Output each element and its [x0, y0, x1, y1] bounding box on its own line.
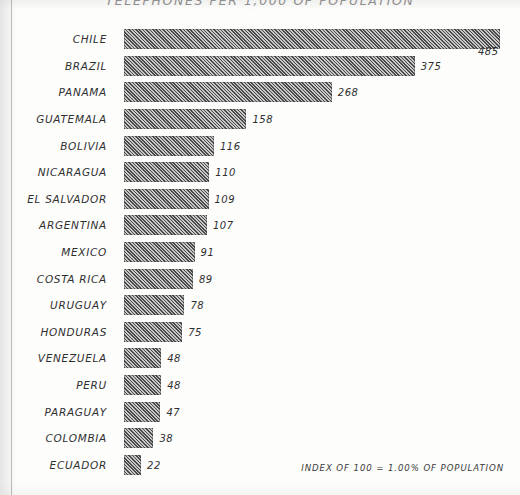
- country-label: VENEZUELA: [0, 352, 107, 364]
- bar-row: GUATEMALA158: [0, 106, 520, 133]
- bar-value-label: 107: [213, 220, 234, 231]
- bar-track: [124, 295, 184, 315]
- bar-value-label: 116: [220, 140, 241, 151]
- country-label: GUATEMALA: [0, 113, 107, 125]
- bar: [124, 295, 184, 315]
- country-label: ARGENTINA: [0, 219, 107, 231]
- bar-row: BRAZIL375: [0, 53, 520, 80]
- bar-track: [124, 269, 193, 289]
- bar-row: COLOMBIA38: [0, 425, 520, 452]
- bar-row: PANAMA268: [0, 79, 520, 106]
- chart-page: TELEPHONES PER 1,000 OF POPULATION CHILE…: [0, 0, 520, 495]
- bar-track: [124, 82, 332, 102]
- bar: [124, 82, 332, 102]
- bar-track: [124, 402, 160, 422]
- bar-track: [124, 56, 415, 76]
- bar: [124, 348, 161, 368]
- bar: [124, 242, 195, 262]
- bar: [124, 215, 207, 235]
- bar-track: [124, 348, 161, 368]
- country-label: PERU: [0, 379, 107, 391]
- bar-value-label: 268: [338, 87, 359, 98]
- bar: [124, 109, 246, 129]
- bar-row: VENEZUELA48: [0, 345, 520, 372]
- bar-value-label: 110: [215, 167, 236, 178]
- bar-value-label: 48: [167, 380, 181, 391]
- bar-track: [124, 375, 161, 395]
- bar-row: HONDURAS75: [0, 319, 520, 346]
- bar: [124, 375, 161, 395]
- bar: [124, 56, 415, 76]
- bar-value-label: 22: [147, 459, 161, 470]
- bar-rows-container: CHILE485BRAZIL375PANAMA268GUATEMALA158BO…: [0, 26, 520, 478]
- bar-track: [124, 455, 141, 475]
- country-label: EL SALVADOR: [0, 193, 107, 205]
- country-label: MEXICO: [0, 246, 107, 258]
- bar-track: [124, 189, 209, 209]
- country-label: PARAGUAY: [0, 406, 107, 418]
- bar-track: [124, 109, 246, 129]
- bar-row: EL SALVADOR109: [0, 186, 520, 213]
- bar-value-label: 38: [159, 433, 173, 444]
- bar: [124, 455, 141, 475]
- bar-track: [124, 215, 207, 235]
- bar: [124, 29, 500, 49]
- bar-row: PARAGUAY47: [0, 398, 520, 425]
- country-label: HONDURAS: [0, 326, 107, 338]
- bar: [124, 402, 160, 422]
- bar-row: ARGENTINA107: [0, 212, 520, 239]
- country-label: BOLIVIA: [0, 140, 107, 152]
- bar-value-label: 78: [190, 300, 204, 311]
- bar-value-label: 89: [199, 273, 213, 284]
- bar-row: MEXICO91: [0, 239, 520, 266]
- bar-row: PERU48: [0, 372, 520, 399]
- index-footnote: INDEX OF 100 = 1.00% OF POPULATION: [301, 463, 504, 473]
- bar-value-label: 91: [201, 247, 215, 258]
- bar-track: [124, 136, 214, 156]
- country-label: URUGUAY: [0, 299, 107, 311]
- bar-row: BOLIVIA116: [0, 132, 520, 159]
- bar: [124, 189, 209, 209]
- bar-value-label: 48: [167, 353, 181, 364]
- bar-value-label: 75: [188, 326, 202, 337]
- bar: [124, 269, 193, 289]
- bar-track: [124, 162, 209, 182]
- bar-value-label: 375: [421, 60, 442, 71]
- bar-track: [124, 428, 153, 448]
- chart-title: TELEPHONES PER 1,000 OF POPULATION: [0, 0, 520, 8]
- country-label: NICARAGUA: [0, 166, 107, 178]
- country-label: PANAMA: [0, 86, 107, 98]
- bar: [124, 428, 153, 448]
- bar-value-label: 47: [166, 406, 180, 417]
- bar: [124, 162, 209, 182]
- bar-track: [124, 242, 195, 262]
- bar-row: NICARAGUA110: [0, 159, 520, 186]
- bar-row: URUGUAY78: [0, 292, 520, 319]
- bar: [124, 136, 214, 156]
- bar-value-label: 158: [252, 114, 273, 125]
- bar-track: [124, 29, 500, 49]
- country-label: COLOMBIA: [0, 432, 107, 444]
- country-label: COSTA RICA: [0, 273, 107, 285]
- country-label: ECUADOR: [0, 459, 107, 471]
- country-label: BRAZIL: [0, 60, 107, 72]
- bar: [124, 322, 182, 342]
- bar-row: COSTA RICA89: [0, 265, 520, 292]
- bar-track: [124, 322, 182, 342]
- bar-value-label: 109: [215, 193, 236, 204]
- country-label: CHILE: [0, 33, 107, 45]
- bar-row: CHILE485: [0, 26, 520, 53]
